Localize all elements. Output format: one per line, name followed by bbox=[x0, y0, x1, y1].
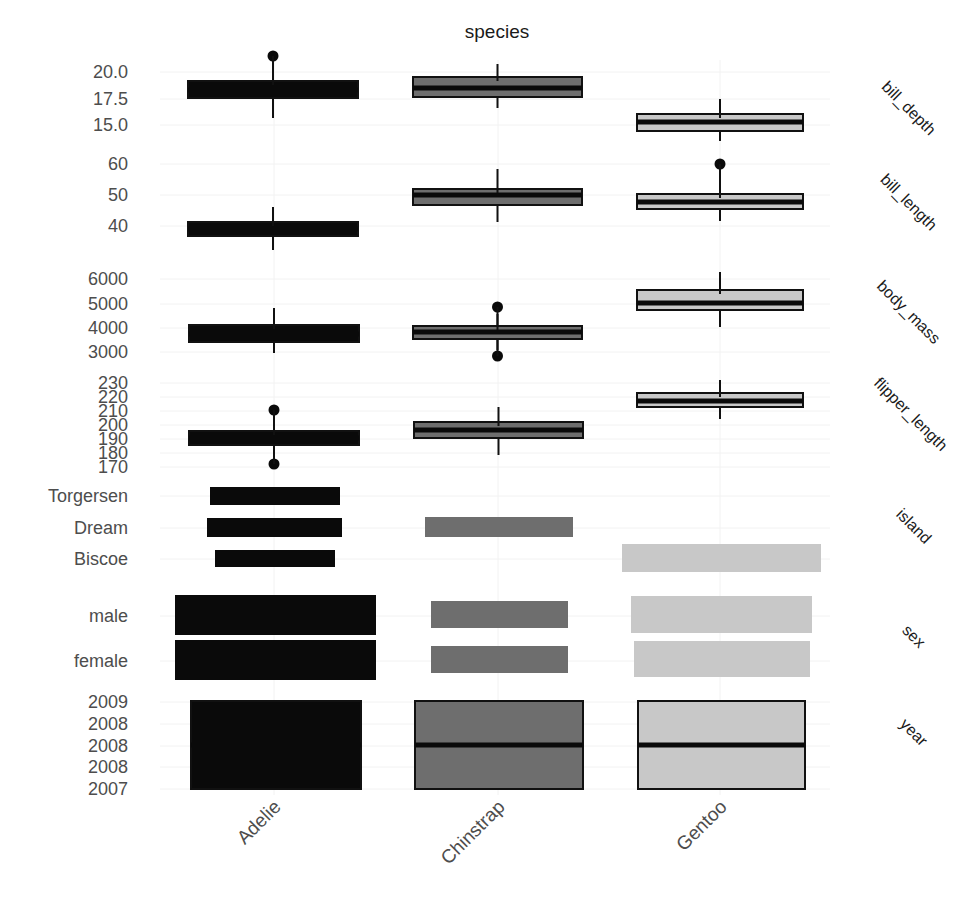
strip-label-bill_depth: bill_depth bbox=[878, 78, 939, 139]
boxplot-bill_length-gentoo bbox=[637, 159, 803, 222]
x-label-chinstrap: Chinstrap bbox=[436, 796, 508, 868]
y-axis-tick-labels: 20.017.515.06050406000500040003000230220… bbox=[48, 62, 128, 799]
facet-strip-labels: bill_depthbill_lengthbody_massflipper_le… bbox=[870, 78, 951, 750]
y-tick-year: 2009 bbox=[88, 692, 128, 712]
bar-island-adelie-biscoe bbox=[215, 550, 335, 567]
strip-label-year: year bbox=[897, 715, 932, 750]
chart-title: species bbox=[465, 21, 529, 42]
y-tick-bill_depth: 15.0 bbox=[93, 115, 128, 135]
y-tick-bill_length: 60 bbox=[108, 154, 128, 174]
boxplot-flipper_length-adelie bbox=[189, 405, 359, 470]
y-tick-year: 2008 bbox=[88, 714, 128, 734]
y-tick-bill_depth: 20.0 bbox=[93, 62, 128, 82]
y-tick-bill_length: 50 bbox=[108, 185, 128, 205]
bar-sex-gentoo-female bbox=[634, 641, 810, 677]
faceted-species-chart: species 20.017.515.060504060005000400030… bbox=[0, 0, 978, 909]
boxplot-bill_length-chinstrap bbox=[413, 169, 582, 222]
bar-sex-adelie-female bbox=[175, 640, 376, 680]
boxplot-bill_depth-chinstrap bbox=[413, 64, 582, 108]
y-tick-bill_length: 40 bbox=[108, 216, 128, 236]
y-tick-year: 2008 bbox=[88, 757, 128, 777]
bar-island-adelie-torgersen bbox=[210, 487, 340, 505]
boxplot-flipper_length-chinstrap bbox=[414, 407, 583, 455]
boxplot-flipper_length-gentoo bbox=[637, 380, 803, 419]
y-tick-body_mass: 3000 bbox=[88, 342, 128, 362]
boxplot-year-gentoo bbox=[638, 701, 805, 789]
strip-label-sex: sex bbox=[899, 621, 929, 651]
y-tick-year: 2008 bbox=[88, 736, 128, 756]
boxplot-year-chinstrap bbox=[415, 701, 583, 789]
bar-island-chinstrap-dream bbox=[425, 517, 573, 537]
bar-sex-chinstrap-female bbox=[431, 646, 568, 673]
boxplot-bill_depth-adelie bbox=[188, 51, 358, 119]
bar-sex-adelie-male bbox=[175, 595, 376, 635]
y-tick-sex: female bbox=[74, 651, 128, 671]
y-tick-year: 2007 bbox=[88, 779, 128, 799]
y-tick-island: Torgersen bbox=[48, 486, 128, 506]
y-tick-sex: male bbox=[89, 606, 128, 626]
y-tick-body_mass: 4000 bbox=[88, 318, 128, 338]
boxplot-body_mass-adelie bbox=[189, 308, 359, 353]
x-label-adelie: Adelie bbox=[233, 796, 285, 848]
strip-label-body_mass: body_mass bbox=[873, 277, 944, 348]
bar-island-adelie-dream bbox=[207, 518, 342, 537]
y-tick-bill_depth: 17.5 bbox=[93, 89, 128, 109]
strip-label-bill_length: bill_length bbox=[877, 171, 941, 235]
boxplot-body_mass-gentoo bbox=[637, 272, 803, 327]
boxplot-year-adelie bbox=[191, 701, 361, 789]
y-tick-body_mass: 6000 bbox=[88, 269, 128, 289]
y-tick-island: Biscoe bbox=[74, 549, 128, 569]
x-axis-tick-labels: Adelie Chinstrap Gentoo bbox=[233, 796, 731, 868]
y-tick-body_mass: 5000 bbox=[88, 294, 128, 314]
bar-sex-gentoo-male bbox=[631, 596, 812, 633]
y-tick-flipper_length: 170 bbox=[98, 457, 128, 477]
boxplot-bill_depth-gentoo bbox=[637, 99, 803, 141]
strip-label-flipper_length: flipper_length bbox=[870, 374, 951, 455]
bar-island-gentoo-biscoe bbox=[622, 544, 821, 572]
x-label-gentoo: Gentoo bbox=[672, 796, 731, 855]
strip-label-island: island bbox=[893, 505, 935, 547]
bar-sex-chinstrap-male bbox=[431, 601, 568, 628]
y-tick-island: Dream bbox=[74, 518, 128, 538]
boxplot-bill_length-adelie bbox=[188, 207, 358, 250]
